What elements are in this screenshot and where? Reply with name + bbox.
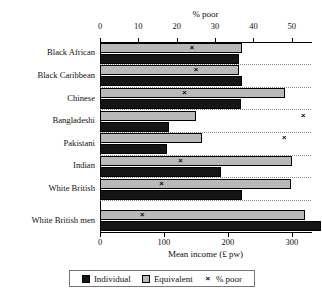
chart-figure: % poor 01020304050 0100200300 Black Afri… xyxy=(0,0,322,306)
legend-label-individual: Individual xyxy=(94,274,131,284)
bottom-tick-label-200: 200 xyxy=(212,237,244,247)
bottom-tick-300 xyxy=(292,233,293,237)
category-label: Black African xyxy=(0,47,95,57)
bar-individual xyxy=(100,221,321,231)
top-tick-label-0: 0 xyxy=(86,21,114,31)
legend-swatch-equivalent xyxy=(142,275,150,283)
poor-marker: × xyxy=(282,135,286,143)
top-tick-label-10: 10 xyxy=(124,21,152,31)
bottom-tick-100 xyxy=(164,233,165,237)
bottom-tick-label-300: 300 xyxy=(276,237,308,247)
cross-marker-icon: × xyxy=(204,275,212,283)
top-tick-label-50: 50 xyxy=(278,21,306,31)
bottom-tick-0 xyxy=(100,233,101,237)
category-label: Black Caribbean xyxy=(0,70,95,80)
top-tick-label-30: 30 xyxy=(201,21,229,31)
poor-marker: × xyxy=(178,157,182,165)
legend-item-poor: × % poor xyxy=(204,274,242,284)
bar-equivalent xyxy=(100,156,292,166)
poor-marker: × xyxy=(194,67,198,75)
category-label: Indian xyxy=(0,160,95,170)
category-label: Chinese xyxy=(0,93,95,103)
bottom-tick-label-0: 0 xyxy=(84,237,116,247)
poor-marker: × xyxy=(159,180,163,188)
top-tick-label-40: 40 xyxy=(239,21,267,31)
chart-legend: Individual Equivalent × % poor xyxy=(69,270,255,287)
category-label: Bangladeshi xyxy=(0,115,95,125)
legend-swatch-individual xyxy=(82,275,90,283)
bottom-tick-label-100: 100 xyxy=(148,237,180,247)
legend-label-poor: % poor xyxy=(216,274,242,284)
category-label: White British xyxy=(0,183,95,193)
bottom-axis-line xyxy=(100,232,312,233)
bar-individual xyxy=(100,54,239,64)
poor-marker: × xyxy=(140,211,144,219)
bottom-tick-200 xyxy=(228,233,229,237)
category-label: Pakistani xyxy=(0,138,95,148)
bar-individual xyxy=(100,99,241,109)
poor-marker: × xyxy=(182,89,186,97)
poor-marker: × xyxy=(301,112,305,120)
bar-equivalent xyxy=(100,210,305,220)
bar-equivalent xyxy=(100,88,285,98)
bar-individual xyxy=(100,167,221,177)
bar-individual xyxy=(100,122,169,132)
legend-item-individual: Individual xyxy=(82,274,131,284)
bar-equivalent xyxy=(100,43,242,53)
legend-label-equivalent: Equivalent xyxy=(154,274,193,284)
bar-individual xyxy=(100,76,242,86)
legend-item-equivalent: Equivalent xyxy=(142,274,193,284)
bar-equivalent xyxy=(100,111,196,121)
bar-equivalent xyxy=(100,65,239,75)
category-label: White British men xyxy=(0,215,95,225)
bar-individual xyxy=(100,190,242,200)
top-tick-label-20: 20 xyxy=(163,21,191,31)
poor-marker: × xyxy=(190,44,194,52)
bar-equivalent xyxy=(100,133,202,143)
gridline xyxy=(100,200,311,201)
bar-equivalent xyxy=(100,179,291,189)
bottom-axis-title: Mean income (£ pw) xyxy=(60,249,322,259)
top-axis-title: % poor xyxy=(60,9,322,19)
bar-individual xyxy=(100,144,167,154)
